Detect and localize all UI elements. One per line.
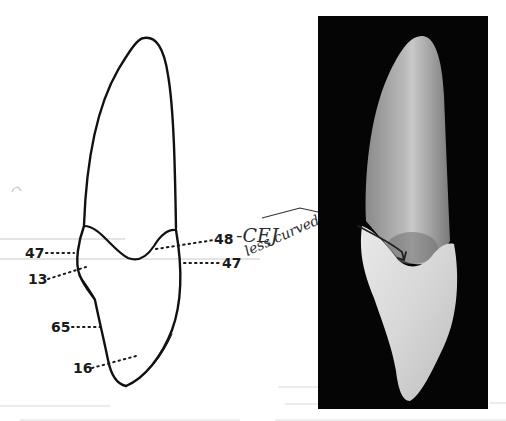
label-16: 16 <box>73 361 92 375</box>
cej-line <box>84 226 176 260</box>
root-outline <box>84 38 176 228</box>
stray-mark <box>12 187 21 192</box>
leader-16 <box>92 356 136 368</box>
label-13: 13 <box>28 272 47 286</box>
label-65: 65 <box>51 320 70 334</box>
tooth-photo <box>318 16 488 409</box>
crown-bulge <box>79 275 95 299</box>
worksheet-page: 48 47 47 13 65 16 -CEJ less curved <box>0 0 506 421</box>
label-48: 48 <box>214 232 233 246</box>
label-47-right: 47 <box>222 256 241 270</box>
tooth-photo-image <box>318 16 488 409</box>
label-47-left: 47 <box>25 246 44 260</box>
leader-48 <box>156 240 214 249</box>
crown-outline-right <box>126 230 180 386</box>
photo-root <box>366 36 450 264</box>
